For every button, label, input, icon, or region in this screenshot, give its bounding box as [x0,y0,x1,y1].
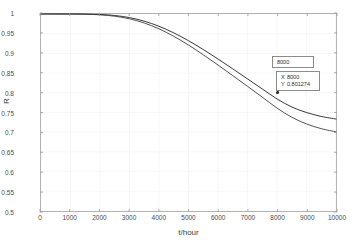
y-axis-title: R [2,98,11,104]
axis-tick-marks [0,0,352,250]
x-axis-title-text: t/hour [178,228,198,237]
datatip-marker-dot[interactable] [276,91,279,94]
figure-canvas: 0.50.550.60.650.70.750.80.850.90.951 010… [0,0,352,250]
datatip-title-text: 8000 [277,59,289,65]
datatip-y-value: 0.801274 [287,81,310,87]
datatip-values-box[interactable]: X8000 Y0.801274 [276,71,320,91]
datatip-x-row: X8000 [281,74,316,81]
datatip-y-row: Y0.801274 [281,81,316,88]
y-axis-title-text: R [2,98,11,104]
datatip-title-box[interactable]: 8000 [272,56,314,68]
x-axis-title: t/hour [0,228,352,237]
datatip-x-value: 8000 [287,74,299,80]
